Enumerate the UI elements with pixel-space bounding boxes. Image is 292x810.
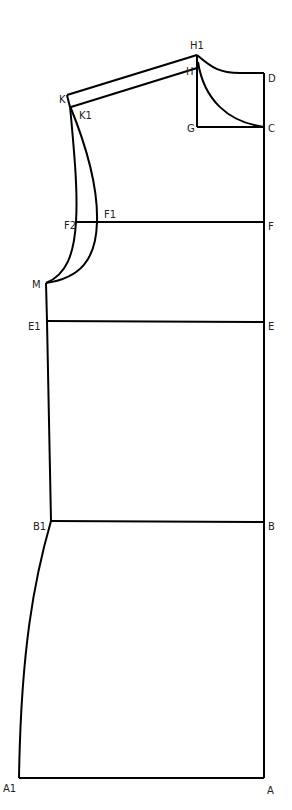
label-h1: H1 [190, 40, 204, 51]
line-b1-b [51, 521, 264, 522]
label-c: C [268, 123, 275, 134]
label-f: F [268, 221, 274, 232]
label-a1: A1 [3, 783, 16, 794]
line-e1-e [47, 321, 264, 322]
side-line-m-b1 [46, 283, 51, 521]
label-h: H [186, 66, 194, 77]
hip-curve-b1-a1 [19, 521, 51, 778]
label-m: M [32, 279, 41, 290]
label-k: K [59, 94, 66, 105]
pattern-diagram: H1 H D G C K K1 F2 F1 F M E1 E B1 B A1 A [0, 0, 292, 810]
label-a: A [267, 785, 274, 796]
label-g: G [187, 123, 195, 134]
neckline-curve-h1-d [197, 55, 264, 73]
label-e1: E1 [28, 321, 41, 332]
label-f1: F1 [104, 209, 116, 220]
label-e: E [268, 321, 274, 332]
label-d: D [268, 73, 276, 84]
label-b1: B1 [33, 521, 46, 532]
line-k-k1 [67, 95, 70, 107]
label-k1: K1 [79, 110, 92, 121]
armhole-curve-inner [46, 106, 77, 283]
label-f2: F2 [64, 220, 76, 231]
label-b: B [268, 521, 275, 532]
